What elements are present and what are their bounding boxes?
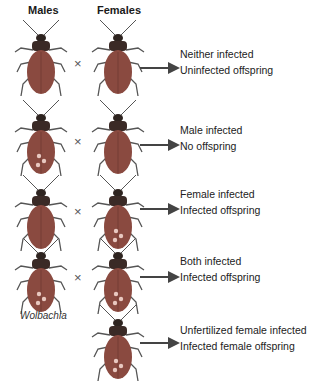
outcome-row-4: Both infected Infected offspring (180, 253, 260, 285)
arrow-icon (140, 203, 180, 215)
cross-symbol: × (74, 56, 82, 71)
arrow-icon (140, 271, 180, 283)
female-beetle-uninfected (90, 20, 146, 106)
condition-label: Neither infected (180, 46, 273, 62)
result-label: Infected offspring (180, 269, 260, 285)
outcome-row-3: Female infected Infected offspring (180, 186, 260, 218)
result-label: No offspring (180, 138, 242, 154)
condition-label: Unfertilized female infected (180, 322, 307, 338)
female-beetle-infected-unfertilized (90, 305, 146, 385)
cross-symbol: × (74, 204, 82, 219)
male-beetle-uninfected (13, 20, 69, 106)
arrow-icon (140, 62, 180, 74)
condition-label: Male infected (180, 122, 242, 138)
header-females: Females (97, 4, 141, 16)
outcome-row-1: Neither infected Uninfected offspring (180, 46, 273, 78)
wolbachia-label: Wolbachia (20, 310, 67, 321)
header-males: Males (28, 4, 59, 16)
outcome-row-2: Male infected No offspring (180, 122, 242, 154)
condition-label: Female infected (180, 186, 260, 202)
result-label: Infected female offspring (180, 338, 307, 354)
arrow-icon (140, 337, 180, 349)
result-label: Infected offspring (180, 202, 260, 218)
male-beetle-infected (13, 100, 69, 186)
result-label: Uninfected offspring (180, 62, 273, 78)
female-beetle-uninfected (90, 100, 146, 186)
cross-symbol: × (74, 270, 82, 285)
cross-symbol: × (74, 134, 82, 149)
condition-label: Both infected (180, 253, 260, 269)
outcome-row-5: Unfertilized female infected Infected fe… (180, 322, 307, 354)
arrow-icon (140, 139, 180, 151)
